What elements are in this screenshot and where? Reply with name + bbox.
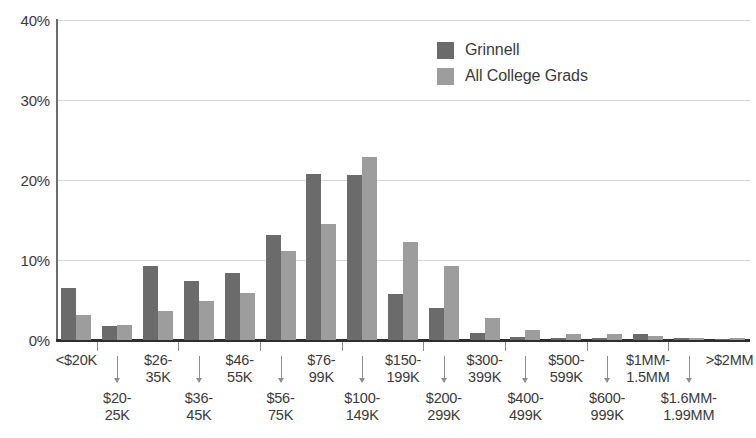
bar: [525, 330, 540, 340]
x-axis-tick: [668, 342, 669, 351]
legend-swatch-icon: [437, 42, 454, 59]
x-axis-tick: [342, 342, 343, 351]
bar-group: [56, 20, 97, 340]
x-category-label: $150- 199K: [361, 352, 445, 386]
bar: [470, 333, 485, 340]
income-distribution-bar-chart: 40%30%20%10%0% <$20K$20- 25K$26- 35K$36-…: [0, 0, 756, 438]
x-axis-tick: [178, 342, 179, 351]
x-axis-tick: [587, 342, 588, 351]
x-category-label: $200- 299K: [402, 390, 486, 424]
bar: [240, 293, 255, 340]
bar: [199, 301, 214, 340]
x-category-label: <$20K: [34, 352, 118, 369]
bar: [321, 224, 336, 340]
y-tick-label: 40%: [0, 12, 50, 29]
bar: [485, 318, 500, 340]
x-axis-tick: [423, 342, 424, 351]
bar: [76, 315, 91, 340]
bar: [674, 338, 689, 340]
bar-group: [97, 20, 138, 340]
bar: [566, 334, 581, 340]
bar: [403, 242, 418, 340]
bar: [281, 251, 296, 340]
x-axis-tick: [505, 342, 506, 351]
x-axis-tick: [260, 342, 261, 351]
x-category-label: $46- 55K: [198, 352, 282, 386]
bar: [607, 334, 622, 340]
bar-group: [178, 20, 219, 340]
bar: [266, 235, 281, 340]
bar: [429, 308, 444, 340]
x-axis-tick: [97, 342, 98, 351]
bar-group: [301, 20, 342, 340]
bar-group: [383, 20, 424, 340]
bar: [551, 338, 566, 340]
bar: [184, 281, 199, 340]
x-category-label: $20- 25K: [75, 390, 159, 424]
x-category-label: $400- 499K: [483, 390, 567, 424]
bar: [689, 338, 704, 340]
bar: [715, 339, 730, 340]
y-tick-label: 10%: [0, 252, 50, 269]
y-tick-label: 30%: [0, 92, 50, 109]
bar: [306, 174, 321, 340]
y-tick-label: 20%: [0, 172, 50, 189]
legend-swatch-icon: [437, 68, 454, 85]
bar-group: [668, 20, 709, 340]
bar-group: [342, 20, 383, 340]
x-category-label: $56- 75K: [239, 390, 323, 424]
bar-group: [709, 20, 750, 340]
x-category-label: $600- 999K: [565, 390, 649, 424]
bar: [102, 326, 117, 340]
bar: [347, 175, 362, 340]
chart-legend: GrinnellAll College Grads: [437, 37, 588, 89]
legend-item-label: All College Grads: [465, 67, 588, 85]
bar: [592, 338, 607, 340]
legend-item: All College Grads: [437, 63, 588, 89]
x-axis-ticks: [56, 342, 750, 352]
bar: [158, 311, 173, 340]
bar: [117, 325, 132, 340]
legend-item-label: Grinnell: [465, 41, 519, 59]
x-category-label: $1.6MM- 1.99MM: [647, 390, 731, 424]
legend-item: Grinnell: [437, 37, 588, 63]
x-axis-category-labels: <$20K$20- 25K$26- 35K$36- 45K$46- 55K$56…: [0, 352, 756, 438]
bar: [61, 288, 76, 340]
bar-group: [138, 20, 179, 340]
bar: [225, 273, 240, 340]
bar-group: [587, 20, 628, 340]
bar: [730, 338, 745, 340]
bar: [362, 157, 377, 340]
x-category-label: $36- 45K: [157, 390, 241, 424]
x-category-label: $76- 99K: [279, 352, 363, 386]
bar-group: [260, 20, 301, 340]
y-tick-label: 0%: [0, 332, 50, 349]
x-category-label: $300- 399K: [443, 352, 527, 386]
bar-group: [628, 20, 669, 340]
x-category-label: $500- 599K: [524, 352, 608, 386]
x-category-label: >$2MM: [688, 352, 756, 369]
bar: [143, 266, 158, 340]
bar: [648, 336, 663, 340]
x-category-label: $26- 35K: [116, 352, 200, 386]
bar: [444, 266, 459, 340]
x-category-label: $1MM- 1.5MM: [606, 352, 690, 386]
x-category-label: $100- 149K: [320, 390, 404, 424]
bar: [633, 334, 648, 340]
bars-layer: [56, 20, 750, 340]
bar: [388, 294, 403, 340]
bar: [510, 337, 525, 340]
bar-group: [219, 20, 260, 340]
